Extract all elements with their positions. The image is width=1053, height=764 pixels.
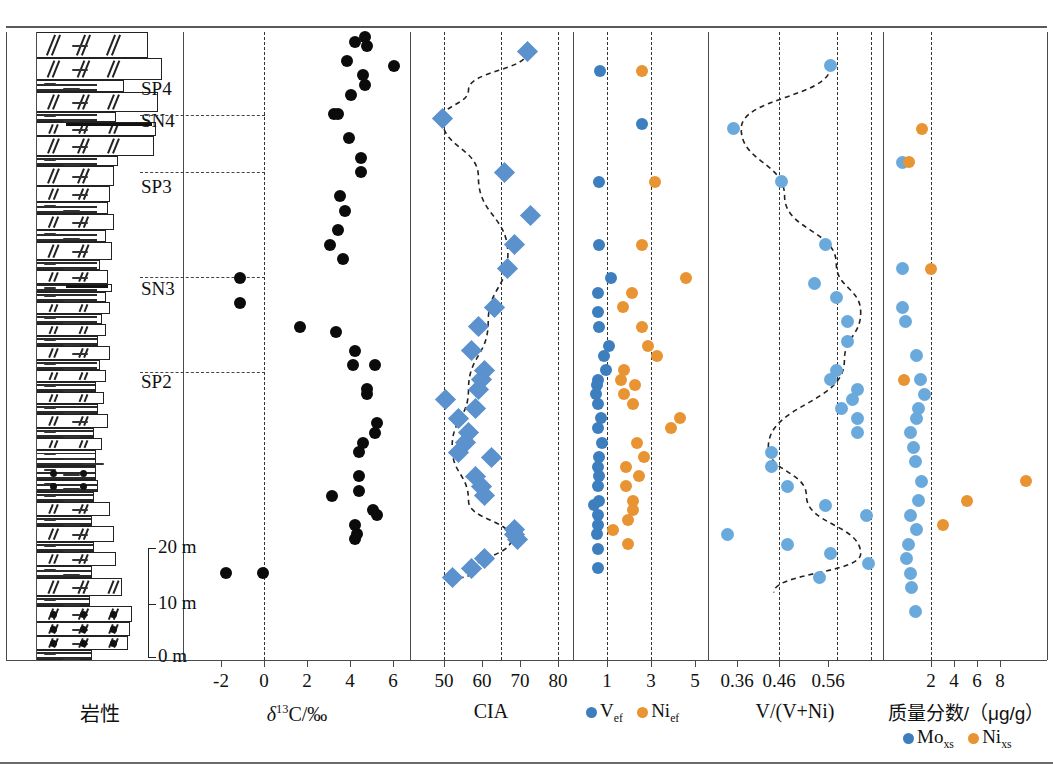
axis-tick-cia: [482, 660, 483, 667]
data-point-vni_ef: [593, 321, 605, 333]
mudstone-dash-mark: [44, 653, 56, 655]
sandstone-dash-mark: [72, 421, 88, 423]
panel-border-cia: [410, 32, 411, 660]
data-point-v_ratio: [727, 122, 740, 135]
figure-top-rule: [6, 26, 1047, 28]
legend-mass-fraction: Moxs Nixs: [903, 726, 1012, 752]
axis-tick-mass_fraction: [954, 660, 955, 667]
grid-line: [779, 32, 780, 660]
axis-tick-vni_ef: [695, 660, 696, 667]
data-point-d13c: [355, 152, 367, 164]
data-point-vni_ef: [592, 287, 604, 299]
data-point-vni_ef: [636, 239, 648, 251]
data-point-vni_ef: [631, 437, 643, 449]
depth-scale-bar: [148, 548, 150, 657]
mudstone-dash-mark: [44, 263, 56, 265]
depth-scale-label: 20 m: [158, 536, 197, 558]
gravel-dot-mark: [50, 640, 57, 647]
data-point-mass_fraction: [915, 475, 928, 488]
mudstone-dash-mark: [63, 238, 80, 240]
data-point-vni_ef: [615, 374, 627, 386]
axis-tick-v_ratio: [828, 660, 829, 667]
zone-label-SN4: SN4: [141, 110, 175, 132]
data-point-vni_ef: [680, 272, 692, 284]
sandstone-dash-mark: [72, 277, 88, 279]
mudstone-dash-mark: [44, 339, 56, 341]
zone-boundary-line: [140, 115, 265, 116]
data-point-mass_fraction: [961, 495, 973, 507]
data-point-mass_fraction: [914, 373, 927, 386]
axis-tick-v_ratio: [779, 660, 780, 667]
data-point-v_ratio: [841, 335, 854, 348]
data-point-vni_ef: [651, 350, 663, 362]
panel-border-v_ratio: [708, 32, 709, 660]
data-point-mass_fraction: [910, 412, 923, 425]
data-point-d13c: [257, 567, 269, 579]
grid-line: [558, 32, 559, 660]
data-point-d13c: [334, 190, 346, 202]
sandstone-dash-mark: [72, 69, 88, 71]
data-point-v_ratio: [862, 557, 875, 570]
data-point-v_ratio: [765, 460, 778, 473]
depth-scale-label: 0 m: [158, 645, 187, 667]
data-point-v_ratio: [835, 402, 848, 415]
data-point-mass_fraction: [916, 123, 928, 135]
data-point-mass_fraction: [918, 388, 931, 401]
legend-label-Ni: Nixs: [982, 726, 1011, 747]
mudstone-dash-mark: [44, 317, 56, 319]
data-point-cia: [432, 108, 453, 129]
data-point-d13c: [361, 388, 373, 400]
mudstone-dash-mark: [44, 287, 56, 289]
data-point-vni_ef: [593, 239, 605, 251]
depth-scale-tick: [148, 604, 156, 605]
sandstone-dash-mark: [72, 559, 88, 561]
mudstone-dash-mark: [63, 488, 80, 490]
gravel-dot-mark: [110, 611, 117, 618]
data-point-mass_fraction: [904, 509, 917, 522]
data-point-vni_ef: [649, 176, 661, 188]
data-point-d13c: [361, 40, 373, 52]
data-point-vni_ef: [592, 422, 604, 434]
data-point-d13c: [294, 321, 306, 333]
data-point-d13c: [332, 108, 344, 120]
depth-scale-tick: [148, 657, 156, 658]
axis-tick-d13c: [393, 660, 394, 667]
data-point-d13c: [324, 239, 336, 251]
mudstone-dash-mark: [63, 458, 80, 460]
data-point-mass_fraction: [909, 605, 922, 618]
data-point-d13c: [355, 166, 367, 178]
sandstone-dash-mark: [72, 251, 88, 253]
axis-tick-label-cia: 80: [530, 670, 586, 692]
data-point-d13c: [353, 485, 365, 497]
lithology-row: [36, 370, 106, 382]
data-point-vni_ef: [594, 65, 606, 77]
data-point-v_ratio: [851, 412, 864, 425]
mudstone-dash-mark: [44, 115, 56, 117]
data-point-vni_ef: [636, 118, 648, 130]
data-point-d13c: [339, 205, 351, 217]
data-point-d13c: [234, 297, 246, 309]
data-point-d13c: [337, 253, 349, 265]
data-point-d13c: [332, 224, 344, 236]
data-point-cia: [461, 340, 482, 361]
data-point-d13c: [347, 359, 359, 371]
data-point-mass_fraction: [896, 262, 909, 275]
data-point-v_ratio: [819, 499, 832, 512]
depth-scale-tick: [148, 548, 156, 549]
data-point-d13c: [345, 89, 357, 101]
axis-tick-d13c: [264, 660, 265, 667]
data-point-vni_ef: [627, 398, 639, 410]
coal-black-band: [66, 123, 152, 126]
data-point-mass_fraction: [910, 349, 923, 362]
data-point-v_ratio: [824, 373, 837, 386]
axis-tick-label-v_ratio: 0.56: [800, 670, 856, 692]
data-point-d13c: [369, 359, 381, 371]
data-point-v_ratio: [781, 480, 794, 493]
data-point-mass_fraction: [905, 581, 918, 594]
data-point-cia: [468, 316, 489, 337]
data-point-cia: [520, 205, 541, 226]
data-point-cia: [494, 161, 515, 182]
zone-label-SP3: SP3: [141, 176, 172, 198]
panel-border-right: [1047, 32, 1048, 660]
figure-canvas: 20 m10 m0 mSP4SN4SP3SN3SP2-2024650607080…: [0, 0, 1053, 764]
